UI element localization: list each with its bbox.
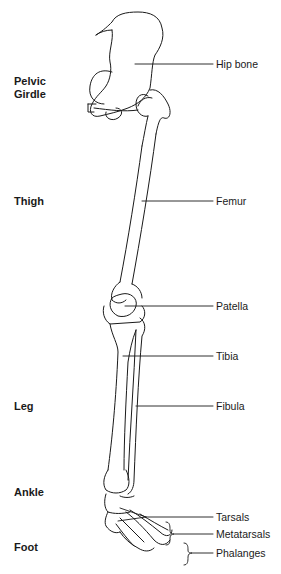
region-label-pelvic-girdle: Pelvic Girdle [14, 75, 46, 101]
metatarsals-brace [166, 522, 174, 545]
region-label-ankle: Ankle [14, 486, 44, 499]
region-text: Pelvic [14, 75, 46, 88]
label-patella: Patella [216, 300, 248, 312]
region-text: Girdle [14, 88, 46, 101]
label-hip-bone: Hip bone [216, 58, 258, 70]
foot-drawing [105, 494, 172, 551]
label-phalanges: Phalanges [216, 547, 266, 559]
phalanges-brace [184, 543, 192, 565]
region-label-leg: Leg [14, 400, 34, 413]
patella-drawing [103, 294, 145, 324]
label-tibia: Tibia [216, 350, 238, 362]
region-label-foot: Foot [14, 541, 38, 554]
label-fibula: Fibula [216, 400, 245, 412]
label-tarsals: Tarsals [216, 511, 249, 523]
tarsals-leader-b [118, 517, 146, 521]
region-label-thigh: Thigh [14, 195, 44, 208]
tarsals-leader-a [120, 508, 146, 517]
femur-drawing [111, 90, 170, 303]
lower-limb-diagram: Pelvic Girdle Thigh Leg Ankle Foot Hip b… [0, 0, 281, 574]
hip-bone-drawing [88, 12, 163, 120]
label-femur: Femur [216, 195, 246, 207]
tibia-drawing [104, 324, 136, 493]
label-metatarsals: Metatarsals [216, 528, 270, 540]
